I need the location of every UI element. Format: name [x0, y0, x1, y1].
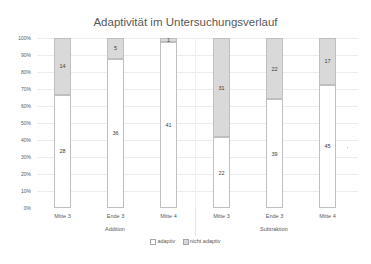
bar-segment-nicht-adaptiv: 22	[266, 38, 283, 99]
y-tick-label: 40%	[0, 137, 31, 143]
gridline	[37, 174, 358, 175]
bar-segment-nicht-adaptiv: 31	[213, 38, 230, 137]
y-tick-label: 80%	[0, 69, 31, 75]
y-tick-label: 100%	[0, 35, 31, 41]
y-tick-label: 0%	[0, 205, 31, 211]
legend-item-adaptiv: adaptiv	[150, 238, 175, 244]
legend-item-nicht-adaptiv: nicht adaptiv	[183, 238, 221, 244]
bar: 2239	[266, 38, 283, 208]
bar-segment-nicht-adaptiv: 5	[107, 38, 124, 59]
legend-label-adaptiv: adaptiv	[157, 238, 175, 244]
x-tick-label: Mitte 3	[38, 213, 88, 219]
gridline	[37, 38, 358, 39]
stray-mark	[347, 147, 348, 148]
gridline	[37, 89, 358, 90]
x-tick-label: Ende 3	[250, 213, 300, 219]
bar: 3122	[213, 38, 230, 208]
x-tick-label: Mitte 4	[144, 213, 194, 219]
legend-label-nicht-adaptiv: nicht adaptiv	[190, 238, 221, 244]
x-tick-label: Mitte 3	[197, 213, 247, 219]
bar: 536	[107, 38, 124, 208]
y-tick-label: 70%	[0, 86, 31, 92]
y-tick-label: 50%	[0, 120, 31, 126]
x-tick-label: Ende 3	[91, 213, 141, 219]
gridline	[37, 106, 358, 107]
x-tick-label: Mitte 4	[303, 213, 353, 219]
bar: 1428	[54, 38, 71, 208]
y-tick-label: 20%	[0, 171, 31, 177]
bar-segment-adaptiv: 45	[319, 85, 336, 208]
bar-segment-adaptiv: 28	[54, 95, 71, 208]
legend-swatch-nicht-adaptiv	[183, 239, 189, 245]
chart-title: Adaptivität im Untersuchungsverlauf	[0, 16, 371, 28]
plot-area: 1428536141312222391745	[37, 38, 358, 208]
gridline	[37, 191, 358, 192]
gridline	[37, 55, 358, 56]
y-tick-label: 10%	[0, 188, 31, 194]
gridline	[37, 123, 358, 124]
bar-segment-adaptiv: 22	[213, 137, 230, 208]
gridline	[37, 157, 358, 158]
y-tick-label: 60%	[0, 103, 31, 109]
y-tick-label: 90%	[0, 52, 31, 58]
bar-segment-nicht-adaptiv: 17	[319, 38, 336, 85]
bar: 1745	[319, 38, 336, 208]
legend-swatch-adaptiv	[150, 239, 156, 245]
bar-segment-adaptiv: 36	[107, 59, 124, 208]
bar-segment-nicht-adaptiv: 14	[54, 38, 71, 95]
bar-segment-adaptiv: 41	[160, 42, 177, 208]
gridline	[37, 140, 358, 141]
gridline	[37, 72, 358, 73]
bar-segment-adaptiv: 39	[266, 99, 283, 208]
legend: adaptiv nicht adaptiv	[0, 238, 371, 245]
y-tick-label: 30%	[0, 154, 31, 160]
group-label-addition: Addition	[65, 226, 165, 232]
group-separator-line	[195, 38, 196, 208]
bar: 141	[160, 38, 177, 208]
group-label-subtraktion: Subtraktion	[224, 226, 324, 232]
